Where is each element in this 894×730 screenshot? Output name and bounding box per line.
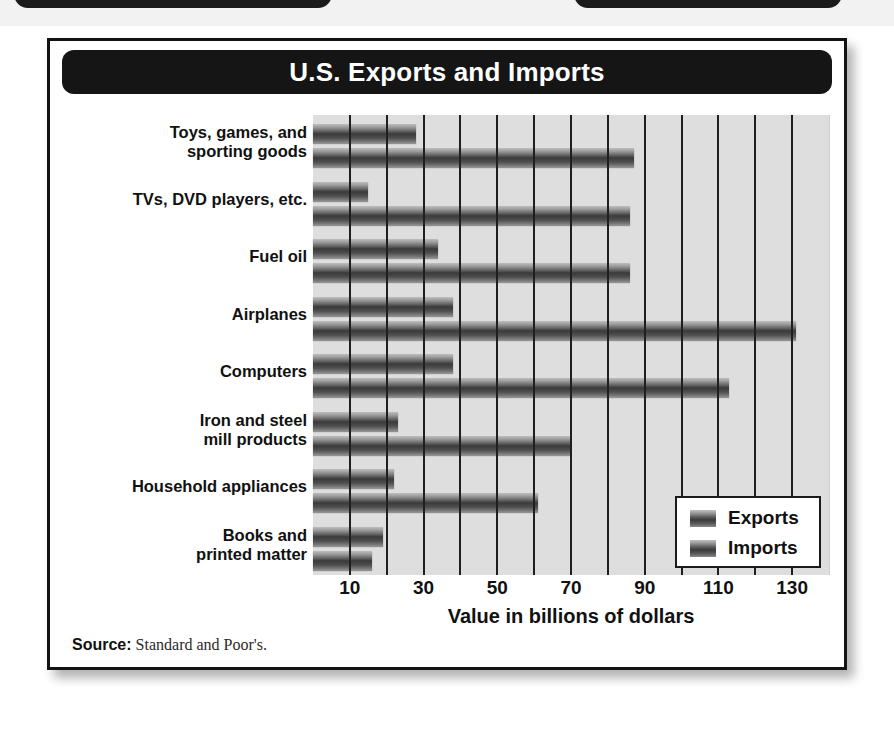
chart-legend: Exports Imports bbox=[675, 496, 821, 568]
grid-line bbox=[423, 115, 425, 575]
category-label-7: Books andprinted matter bbox=[58, 526, 307, 564]
category-label-line: sporting goods bbox=[58, 142, 307, 161]
category-label-line: printed matter bbox=[58, 545, 307, 564]
category-label-line: Toys, games, and bbox=[58, 123, 307, 142]
category-label-line: TVs, DVD players, etc. bbox=[58, 190, 307, 209]
category-label-6: Household appliances bbox=[58, 477, 307, 496]
x-tick-label-10: 10 bbox=[339, 577, 360, 599]
category-axis-labels: Toys, games, andsporting goodsTVs, DVD p… bbox=[58, 115, 307, 575]
legend-entry-exports: Exports bbox=[677, 503, 819, 533]
x-tick-label-70: 70 bbox=[560, 577, 581, 599]
bar-exports-1 bbox=[313, 182, 368, 201]
grid-line bbox=[533, 115, 535, 575]
cut-off-tab-left bbox=[14, 0, 332, 8]
category-label-1: TVs, DVD players, etc. bbox=[58, 190, 307, 209]
legend-label-imports: Imports bbox=[728, 537, 798, 559]
grid-line bbox=[386, 115, 388, 575]
x-tick-label-110: 110 bbox=[703, 577, 734, 599]
grid-line bbox=[496, 115, 498, 575]
bar-imports-4 bbox=[313, 378, 729, 397]
cut-off-tab-right bbox=[574, 0, 842, 8]
category-label-line: Books and bbox=[58, 526, 307, 545]
chart-card: U.S. Exports and Imports Toys, games, an… bbox=[47, 38, 847, 670]
category-label-4: Computers bbox=[58, 362, 307, 381]
category-label-line: Iron and steel bbox=[58, 411, 307, 430]
source-label: Source: bbox=[72, 636, 132, 653]
page-top-strip bbox=[0, 0, 894, 26]
x-axis-ticks: 1030507090110130 bbox=[313, 577, 829, 603]
bar-imports-6 bbox=[313, 493, 538, 512]
bar-exports-6 bbox=[313, 469, 394, 488]
grid-line bbox=[570, 115, 572, 575]
category-label-line: Fuel oil bbox=[58, 247, 307, 266]
bar-imports-7 bbox=[313, 551, 372, 570]
category-label-3: Airplanes bbox=[58, 305, 307, 324]
bar-imports-1 bbox=[313, 206, 630, 225]
category-label-line: Airplanes bbox=[58, 305, 307, 324]
grid-line bbox=[459, 115, 461, 575]
bar-exports-0 bbox=[313, 124, 416, 143]
chart-area: Toys, games, andsporting goodsTVs, DVD p… bbox=[50, 103, 844, 668]
bar-swatch-icon bbox=[690, 510, 716, 527]
legend-label-exports: Exports bbox=[728, 507, 799, 529]
x-axis-title: Value in billions of dollars bbox=[313, 605, 829, 628]
x-tick-label-90: 90 bbox=[634, 577, 655, 599]
category-label-5: Iron and steelmill products bbox=[58, 411, 307, 449]
category-label-2: Fuel oil bbox=[58, 247, 307, 266]
x-tick-label-50: 50 bbox=[487, 577, 508, 599]
legend-entry-imports: Imports bbox=[677, 533, 819, 563]
bar-exports-2 bbox=[313, 239, 438, 258]
page-title: U.S. Exports and Imports bbox=[289, 57, 604, 88]
category-label-line: Household appliances bbox=[58, 477, 307, 496]
grid-line bbox=[644, 115, 646, 575]
x-tick-label-130: 130 bbox=[776, 577, 808, 599]
category-label-line: Computers bbox=[58, 362, 307, 381]
bar-swatch-icon bbox=[690, 540, 716, 557]
category-label-0: Toys, games, andsporting goods bbox=[58, 123, 307, 161]
grid-line bbox=[607, 115, 609, 575]
bar-exports-4 bbox=[313, 354, 453, 373]
category-label-line: mill products bbox=[58, 430, 307, 449]
bar-imports-2 bbox=[313, 263, 630, 282]
plot-region: Exports Imports bbox=[313, 115, 830, 575]
source-value: Standard and Poor's. bbox=[136, 636, 267, 653]
source-note: Source: Standard and Poor's. bbox=[72, 636, 267, 654]
bar-exports-3 bbox=[313, 297, 453, 316]
chart-title-bar: U.S. Exports and Imports bbox=[62, 50, 832, 94]
x-tick-label-30: 30 bbox=[413, 577, 434, 599]
grid-line bbox=[349, 115, 351, 575]
bar-imports-0 bbox=[313, 148, 634, 167]
